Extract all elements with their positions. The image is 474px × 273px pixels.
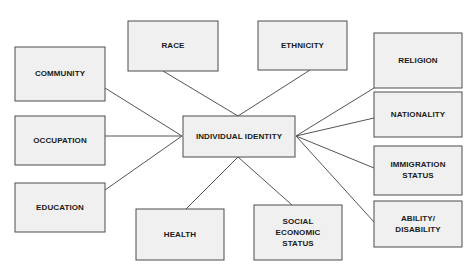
connector-race-to-individual-identity [163,71,238,116]
node-label-line: OCCUPATION [33,136,87,145]
node-label-line: EDUCATION [36,203,84,212]
node-label-nationality: NATIONALITY [391,110,446,119]
node-label-ethnicity: ETHNICITY [281,41,325,50]
node-community[interactable]: COMMUNITY [15,47,105,101]
connector-immigration-status-to-individual-identity [296,136,374,168]
node-layer: COMMUNITYOCCUPATIONEDUCATIONRACEETHNICIT… [15,21,462,260]
node-label-line: ABILITY/ [401,214,436,223]
node-label-line: ETHNICITY [281,41,325,50]
node-label-line: STATUS [282,239,314,248]
identity-concept-map: COMMUNITYOCCUPATIONEDUCATIONRACEETHNICIT… [0,0,474,273]
node-label-occupation: OCCUPATION [33,136,87,145]
connector-social-economic-status-to-individual-identity [238,157,292,205]
node-education[interactable]: EDUCATION [15,183,105,232]
connector-ethnicity-to-individual-identity [238,70,310,116]
node-label-line: IMMIGRATION [390,160,445,169]
node-label-line: STATUS [402,171,434,180]
node-label-line: NATIONALITY [391,110,446,119]
connector-religion-to-individual-identity [296,88,374,136]
node-label-line: SOCIAL [283,217,314,226]
concept-map-canvas: COMMUNITYOCCUPATIONEDUCATIONRACEETHNICIT… [0,0,474,273]
node-label-religion: RELIGION [398,56,438,65]
node-health[interactable]: HEALTH [136,209,224,260]
node-label-education: EDUCATION [36,203,84,212]
node-label-health: HEALTH [164,230,197,239]
node-label-race: RACE [161,41,185,50]
node-label-community: COMMUNITY [35,69,86,78]
node-label-line: RACE [161,41,185,50]
node-religion[interactable]: RELIGION [374,33,462,88]
node-individual-identity[interactable]: INDIVIDUAL IDENTITY [183,116,295,157]
node-label-line: HEALTH [164,230,197,239]
node-label-line: INDIVIDUAL IDENTITY [196,132,283,141]
node-ability-disability[interactable]: ABILITY/DISABILITY [374,201,462,247]
node-immigration-status[interactable]: IMMIGRATIONSTATUS [374,146,462,195]
connector-education-to-individual-identity [105,136,182,190]
node-label-line: DISABILITY [395,225,441,234]
connector-community-to-individual-identity [105,88,182,136]
node-ethnicity[interactable]: ETHNICITY [258,21,347,70]
connector-nationality-to-individual-identity [296,118,374,136]
connector-health-to-individual-identity [186,157,238,209]
node-label-line: COMMUNITY [35,69,86,78]
node-label-line: ECONOMIC [276,228,321,237]
node-occupation[interactable]: OCCUPATION [15,116,105,165]
node-nationality[interactable]: NATIONALITY [374,92,462,137]
node-label-individual-identity: INDIVIDUAL IDENTITY [196,132,283,141]
node-race[interactable]: RACE [128,21,218,71]
node-label-line: RELIGION [398,56,438,65]
node-social-economic-status[interactable]: SOCIALECONOMICSTATUS [254,205,342,260]
